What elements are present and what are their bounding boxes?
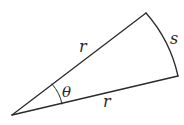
arc-label-s: s: [170, 29, 178, 48]
sector-diagram: r r s θ: [0, 0, 184, 125]
radius-label-upper: r: [79, 37, 88, 56]
sector-shape: [12, 13, 178, 115]
radius-label-lower: r: [103, 92, 112, 111]
angle-label-theta: θ: [62, 83, 71, 101]
angle-arc: [52, 84, 62, 104]
